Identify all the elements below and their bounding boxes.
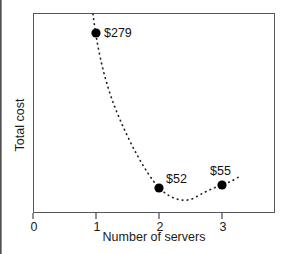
data-point-label-2: $52 — [166, 172, 187, 186]
data-point-marker-1 — [91, 28, 100, 37]
x-axis-ticks — [33, 213, 222, 219]
x-axis-title: Number of servers — [33, 230, 275, 244]
chart-figure: $279 $52 $55 0 1 2 3 Number of servers T… — [0, 0, 289, 254]
data-point-label-1: $279 — [104, 26, 132, 40]
data-point-marker-3 — [217, 180, 226, 189]
data-point-label-3: $55 — [210, 164, 231, 178]
y-axis-title: Total cost — [13, 79, 27, 171]
chart-plot-svg — [0, 0, 289, 254]
data-point-marker-2 — [154, 183, 163, 192]
